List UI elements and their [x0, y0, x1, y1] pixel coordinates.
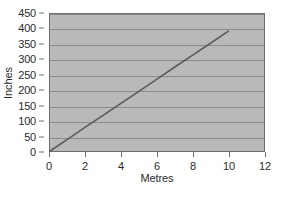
y-tick-label: 200: [18, 84, 36, 96]
y-tick-label: 0: [30, 146, 36, 158]
plot-area: [49, 13, 265, 152]
y-tick-mark: [39, 13, 44, 14]
y-tick-mark: [39, 43, 44, 44]
y-tick-label: 350: [18, 38, 36, 50]
y-tick-label: 150: [18, 100, 36, 112]
x-tick-label: 4: [118, 160, 124, 172]
x-tick-label: 8: [190, 160, 196, 172]
y-tick-label: 450: [18, 7, 36, 19]
x-tick-mark: [229, 152, 230, 157]
x-tick-label: 12: [259, 160, 271, 172]
y-tick-mark: [39, 90, 44, 91]
y-tick-mark: [39, 74, 44, 75]
x-tick-label: 10: [223, 160, 235, 172]
x-tick-label: 2: [82, 160, 88, 172]
conversion-line-chart: Inches 050100150200250300350400450 02468…: [0, 0, 288, 197]
x-tick-mark: [49, 152, 50, 157]
y-tick-mark: [39, 121, 44, 122]
y-tick-mark: [39, 28, 44, 29]
y-tick-label: 100: [18, 115, 36, 127]
x-tick-mark: [157, 152, 158, 157]
y-tick-mark: [39, 105, 44, 106]
x-axis-title: Metres: [49, 172, 265, 184]
x-tick-mark: [121, 152, 122, 157]
x-tick-mark: [193, 152, 194, 157]
y-tick-label: 250: [18, 69, 36, 81]
y-tick-label: 50: [24, 131, 36, 143]
y-tick-label: 400: [18, 22, 36, 34]
x-tick-mark: [265, 152, 266, 157]
y-tick-label: 300: [18, 53, 36, 65]
y-tick-mark: [39, 59, 44, 60]
y-tick-mark: [39, 136, 44, 137]
x-tick-label: 0: [46, 160, 52, 172]
x-tick-label: 6: [154, 160, 160, 172]
x-axis-tick-group: 024681012: [49, 152, 265, 174]
x-tick-mark: [85, 152, 86, 157]
series-layer: [50, 14, 264, 151]
y-axis-tick-group: 050100150200250300350400450: [0, 13, 44, 152]
y-tick-mark: [39, 152, 44, 153]
series-line-metres-to-inches: [50, 31, 228, 151]
